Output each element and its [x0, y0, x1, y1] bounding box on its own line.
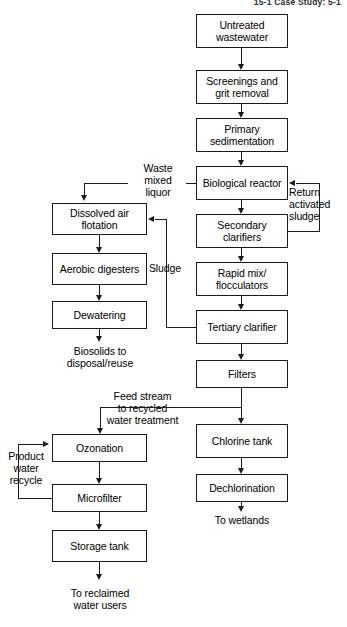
- arrowhead-pwr-into-ozonation: [43, 441, 49, 447]
- connector-feedstream-horizontal: [100, 407, 242, 408]
- box-dissolved-air-flotation: Dissolved air flotation: [52, 203, 147, 235]
- connector-pwr-from-microfilter: [18, 498, 52, 499]
- box-storage-tank: Storage tank: [52, 530, 147, 562]
- arrowhead-feedstream-into-ozonation: [97, 428, 103, 434]
- connector-wml-to-dropline: [84, 183, 128, 184]
- connector-tertiary-to-filters: [241, 344, 242, 354]
- connector-chlorine-to-dechlorination: [241, 458, 242, 468]
- connector-digesters-to-dewatering: [99, 285, 100, 295]
- connector-pwr-into-ozonation: [18, 444, 43, 445]
- arrowhead-tertiary-to-filters: [238, 354, 244, 360]
- box-chlorine-tank: Chlorine tank: [196, 424, 288, 458]
- arrowhead-biological-to-secondary: [238, 208, 244, 214]
- connector-primary-to-biological: [241, 152, 242, 160]
- connector-ras-vertical: [319, 183, 320, 231]
- connector-ozonation-to-microfilter: [99, 462, 100, 478]
- box-rapid-mix-flocculators: Rapid mix/ flocculators: [196, 262, 288, 296]
- arrowhead-screenings-to-primary: [238, 112, 244, 118]
- arrowhead-sludge-into-dissolved-air-flotation: [148, 216, 154, 222]
- connector-wml-from-reactor: [186, 183, 196, 184]
- process-flow-diagram: 15-1 Case Study: 5-1 Untreated wastewate…: [0, 0, 347, 627]
- arrowhead-daf-to-digesters: [96, 247, 102, 253]
- connector-wml-vertical: [84, 183, 85, 195]
- connector-untreated-to-screenings: [241, 48, 242, 64]
- arrowhead-untreated-to-screenings: [238, 64, 244, 70]
- label-sludge: Sludge: [140, 262, 190, 274]
- label-waste-mixed-liquor: Waste mixed liquor: [130, 162, 186, 198]
- label-to-reclaimed-water-users: To reclaimed water users: [44, 587, 156, 611]
- box-aerobic-digesters: Aerobic digesters: [52, 253, 147, 285]
- connector-secondary-to-rapidmix: [241, 248, 242, 256]
- connector-ras-out-horizontal: [288, 231, 320, 232]
- box-screenings-grit-removal: Screenings and grit removal: [196, 70, 288, 104]
- arrowhead-ozonation-to-microfilter: [96, 478, 102, 484]
- arrowhead-wml-into-dissolved-air-flotation: [81, 195, 87, 201]
- connector-sludge-into-daf: [155, 219, 166, 220]
- label-product-water-recycle: Product water recycle: [1, 450, 51, 486]
- arrowhead-secondary-to-rapidmix: [238, 256, 244, 262]
- box-ozonation: Ozonation: [52, 434, 147, 462]
- connector-rapidmix-to-tertiary: [241, 296, 242, 304]
- arrowhead-rapidmix-to-tertiary: [238, 304, 244, 310]
- box-dewatering: Dewatering: [52, 301, 147, 329]
- box-untreated-wastewater: Untreated wastewater: [196, 14, 288, 48]
- box-primary-sedimentation: Primary sedimentation: [196, 118, 288, 152]
- label-return-activated-sludge: Return activated sludge: [289, 186, 345, 222]
- connector-sludge-from-tertiary: [166, 327, 196, 328]
- arrowhead-dewatering-to-biosolids: [96, 336, 102, 342]
- page-running-header: 15-1 Case Study: 5-1: [254, 0, 341, 7]
- arrowhead-storage-to-reclaimed-users: [96, 574, 102, 580]
- label-biosolids-to-disposal: Biosolids to disposal/reuse: [42, 345, 158, 369]
- arrowhead-ras-into-biological-reactor: [289, 180, 295, 186]
- connector-ras-in-horizontal: [296, 183, 320, 184]
- connector-sludge-vertical: [166, 219, 167, 327]
- arrowhead-primary-to-biological: [238, 160, 244, 166]
- arrowhead-filters-to-chlorine: [238, 418, 244, 424]
- arrowhead-microfilter-to-storage: [96, 524, 102, 530]
- box-dechlorination: Dechlorination: [196, 474, 288, 502]
- connector-daf-to-digesters: [99, 235, 100, 247]
- box-secondary-clarifiers: Secondary clarifiers: [196, 214, 288, 248]
- connector-filters-to-chlorine: [241, 388, 242, 418]
- connector-biological-to-secondary: [241, 200, 242, 208]
- connector-pwr-vertical: [18, 444, 19, 498]
- arrowhead-chlorine-to-dechlorination: [238, 468, 244, 474]
- connector-microfilter-to-storage: [99, 512, 100, 524]
- connector-feedstream-vertical: [100, 407, 101, 428]
- box-filters: Filters: [196, 360, 288, 388]
- arrowhead-dechlorination-to-wetlands: [238, 506, 244, 512]
- box-tertiary-clarifier: Tertiary clarifier: [196, 310, 288, 344]
- connector-screenings-to-primary: [241, 104, 242, 112]
- arrowhead-digesters-to-dewatering: [96, 295, 102, 301]
- label-to-wetlands: To wetlands: [192, 514, 292, 526]
- box-biological-reactor: Biological reactor: [196, 166, 288, 200]
- box-microfilter: Microfilter: [52, 484, 147, 512]
- label-feed-stream: Feed stream to recycled water treatment: [93, 390, 192, 426]
